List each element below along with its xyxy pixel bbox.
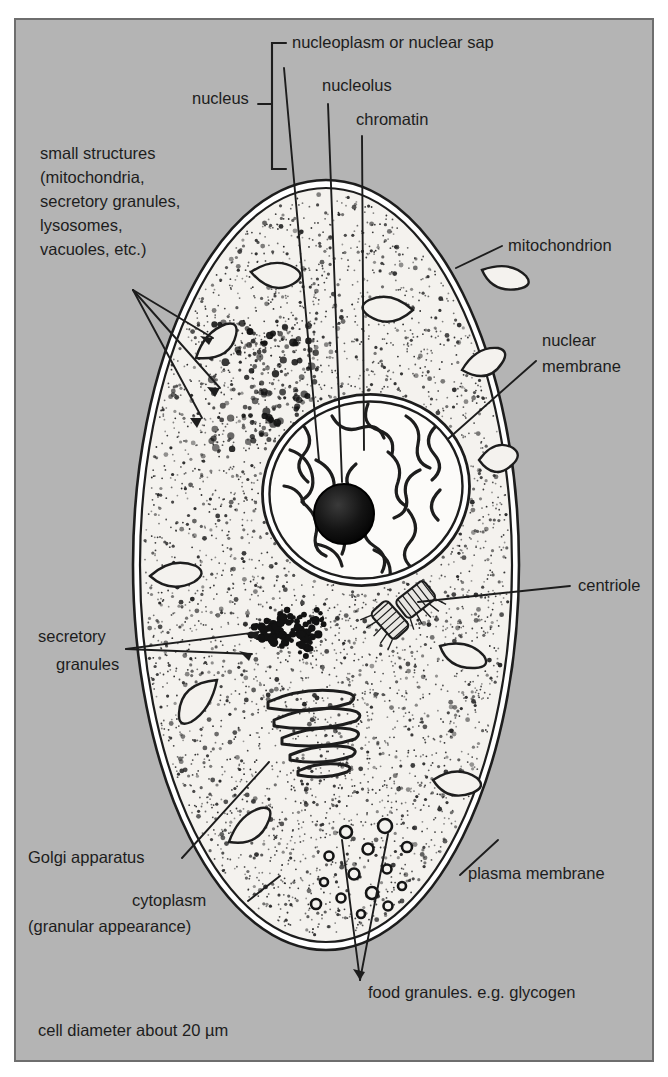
food-granule <box>384 902 393 911</box>
food-granule <box>337 894 346 903</box>
nuclear-membrane-line-2: membrane <box>542 356 621 377</box>
label-mitochondrion: mitochondrion <box>508 235 612 256</box>
food-granule <box>349 869 360 880</box>
food-granule <box>325 852 334 861</box>
nucleolus <box>314 484 374 544</box>
food-granule <box>340 826 352 838</box>
food-granule <box>378 819 392 833</box>
food-granule <box>402 842 412 852</box>
leader-mitochondrion <box>456 246 502 268</box>
small-structures-line-2: (mitochondria, <box>40 167 145 188</box>
cropped-heading-strip <box>0 0 668 14</box>
cropped-heading-text <box>8 0 13 11</box>
label-chromatin: chromatin <box>356 109 428 130</box>
nuclear-membrane-line-1: nuclear <box>542 330 596 351</box>
label-centriole: centriole <box>578 575 640 596</box>
label-nucleoplasm: nucleoplasm or nuclear sap <box>292 32 494 53</box>
label-golgi-apparatus: Golgi apparatus <box>28 847 145 868</box>
label-food-granules: food granules. e.g. glycogen <box>368 982 575 1003</box>
label-nucleolus: nucleolus <box>322 75 392 96</box>
food-granule <box>383 865 392 874</box>
cytoplasm-line-1: cytoplasm <box>132 890 206 911</box>
food-granule <box>357 910 365 918</box>
nucleus-bracket <box>272 43 286 169</box>
secretory-granules-line-1: secretory <box>38 626 106 647</box>
mitochondrion <box>482 266 529 289</box>
small-structures-line-3: secretory granules, <box>40 191 180 212</box>
figure-page: nucleus nucleoplasm or nuclear sap nucle… <box>0 0 668 1077</box>
label-nucleus: nucleus <box>192 88 249 109</box>
label-plasma-membrane: plasma membrane <box>468 863 605 884</box>
food-granule <box>398 882 406 890</box>
figure-caption: cell diameter about 20 µm <box>38 1020 228 1041</box>
small-structures-line-1: small structures <box>40 143 156 164</box>
small-structures-line-5: vacuoles, etc.) <box>40 239 146 260</box>
food-granule <box>311 899 321 909</box>
secretory-granules-line-2: granules <box>56 654 119 675</box>
food-granule <box>320 878 328 886</box>
figure-frame: nucleus nucleoplasm or nuclear sap nucle… <box>14 18 654 1062</box>
cytoplasm-line-2: (granular appearance) <box>28 916 191 937</box>
small-structures-line-4: lysosomes, <box>40 215 123 236</box>
food-granule <box>363 844 374 855</box>
